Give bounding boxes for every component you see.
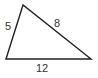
side-label-right: 8	[54, 17, 60, 29]
side-label-left: 5	[5, 20, 11, 32]
triangle-diagram: 5 8 12	[0, 0, 98, 78]
triangle-shape	[6, 5, 91, 59]
side-label-base: 12	[36, 62, 48, 74]
